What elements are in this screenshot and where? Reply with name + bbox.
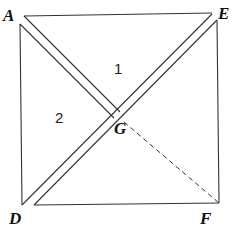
segment-AD xyxy=(20,24,22,205)
point-label-F: F xyxy=(199,209,212,228)
segment-AE xyxy=(24,13,212,16)
segment-AG-upper xyxy=(24,16,120,112)
point-label-E: E xyxy=(217,4,229,23)
segment-EF xyxy=(217,20,219,203)
point-label-A: A xyxy=(2,6,14,25)
point-label-D: D xyxy=(8,209,21,228)
point-label-G: G xyxy=(114,119,127,138)
geometry-figure: A E D F G 1 2 xyxy=(0,0,240,231)
diagram-canvas: A E D F G 1 2 xyxy=(0,0,240,231)
segment-DF xyxy=(34,203,219,205)
region-label-2: 2 xyxy=(55,109,63,126)
segment-AG-lower xyxy=(20,24,114,118)
segment-GF xyxy=(124,122,219,203)
region-label-1: 1 xyxy=(114,60,122,77)
